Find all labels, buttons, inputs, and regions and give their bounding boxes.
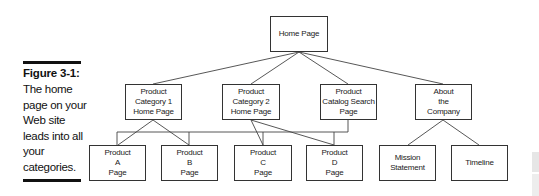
node-timeline: Timeline [451, 145, 508, 181]
node-product-c: Product C Page [234, 145, 292, 181]
node-product-category-1: Product Category 1 Home Page [125, 84, 182, 120]
node-product-b: Product B Page [161, 145, 218, 181]
node-product-d: Product D Page [306, 145, 363, 181]
node-catalog-search: Product Catalog Search Page [320, 84, 377, 120]
node-product-category-2: Product Category 2 Home Page [222, 84, 280, 120]
node-about-company: About the Company [415, 84, 472, 120]
edge-shade-bottom [532, 174, 539, 196]
node-home-page: Home Page [270, 16, 328, 52]
node-product-a: Product A Page [89, 145, 146, 181]
edge-shade-top [532, 152, 539, 172]
node-mission-statement: Mission Statement [379, 145, 436, 181]
